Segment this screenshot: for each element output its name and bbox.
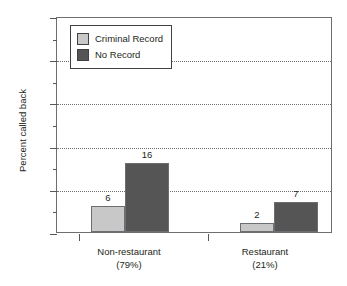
gridline-10 <box>57 191 331 192</box>
plot-area: 50 40 30 20 10 0 6 16 2 7 Criminal Recor… <box>56 17 332 233</box>
legend-item-label: Criminal Record <box>95 34 163 44</box>
bar-restaurant-no-record: 7 <box>274 202 318 232</box>
x-category-label-restaurant: Restaurant (21%) <box>190 245 340 271</box>
y-tick-50 <box>50 18 57 19</box>
category-sublabel: (21%) <box>190 258 340 271</box>
y-tick-minor-5 <box>53 212 57 213</box>
y-axis-title: Percent called back <box>17 51 28 211</box>
bar-value-label: 16 <box>142 150 153 160</box>
bar-value-label: 6 <box>105 193 110 203</box>
y-tick-minor-45 <box>53 40 57 41</box>
bar-non-restaurant-criminal-record: 6 <box>91 206 125 232</box>
legend: Criminal Record No Record <box>70 25 172 69</box>
bar-value-label: 2 <box>254 210 259 220</box>
bar-restaurant-criminal-record: 2 <box>240 223 274 232</box>
legend-swatch-icon <box>77 49 89 61</box>
gridline-30 <box>57 104 331 105</box>
y-tick-30 <box>50 104 57 105</box>
bar-value-label: 7 <box>293 189 298 199</box>
x-category-label-non-restaurant: Non-restaurant (79%) <box>54 245 204 271</box>
y-tick-40 <box>50 61 57 62</box>
bar-non-restaurant-no-record: 16 <box>125 163 169 232</box>
legend-item-label: No Record <box>95 50 140 60</box>
legend-item-criminal-record: Criminal Record <box>77 31 163 47</box>
y-tick-minor-35 <box>53 83 57 84</box>
y-tick-minor-15 <box>53 169 57 170</box>
x-tick-group-boundary <box>208 234 209 241</box>
y-tick-minor-25 <box>53 126 57 127</box>
x-tick-group-boundary <box>79 234 80 241</box>
category-name: Restaurant <box>242 246 288 257</box>
legend-item-no-record: No Record <box>77 47 163 63</box>
y-tick-10 <box>50 191 57 192</box>
y-tick-0 <box>50 234 57 235</box>
category-sublabel: (79%) <box>54 258 204 271</box>
category-name: Non-restaurant <box>97 246 160 257</box>
gridline-20 <box>57 148 331 149</box>
y-tick-20 <box>50 148 57 149</box>
legend-swatch-icon <box>77 33 89 45</box>
bar-chart: Percent called back 50 40 30 20 10 0 6 1 <box>0 0 347 286</box>
